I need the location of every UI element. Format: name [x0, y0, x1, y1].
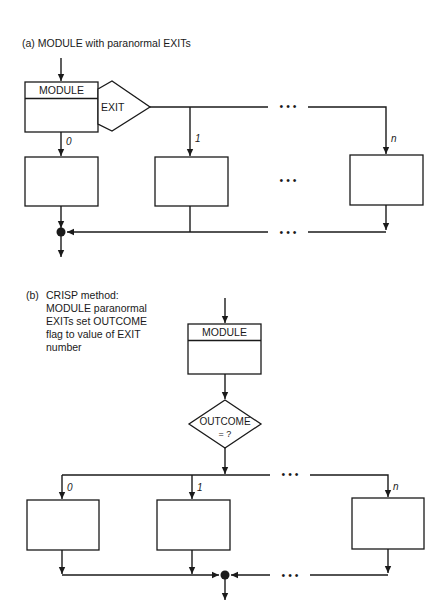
panel-b-caption-line-3: EXITs set OUTCOME [46, 315, 147, 327]
process-box-1-b [157, 500, 230, 550]
panel-b-caption-prefix: (b) [26, 289, 39, 301]
bottom-ellipsis: • • • [280, 226, 297, 238]
process-box-n [350, 155, 423, 205]
branch-n-arrow [308, 107, 386, 154]
flowchart-canvas: (a) MODULE with paranormal EXITs MODULE … [0, 0, 443, 604]
process-box-1 [155, 157, 228, 206]
top-ellipsis-b: • • • [282, 468, 299, 480]
top-ellipsis: • • • [280, 100, 297, 112]
panel-b-caption-line-1: CRISP method: [46, 289, 119, 301]
middle-ellipsis: • • • [280, 174, 297, 186]
panel-a-caption: (a) MODULE with paranormal EXITs [22, 37, 191, 49]
bottom-ellipsis-b: • • • [282, 569, 299, 581]
outcome-label-line-1: OUTCOME [199, 416, 250, 427]
outcome-decision: OUTCOME = ? [189, 400, 261, 448]
panel-b-caption-line-5: number [46, 341, 82, 353]
process-box-n-b [352, 498, 424, 549]
branch-1-label: 1 [195, 133, 201, 144]
module-box-b: MODULE [188, 324, 261, 374]
module-box: MODULE [25, 82, 98, 132]
exit-label: EXIT [101, 101, 125, 113]
branch-0-label: 0 [66, 136, 72, 147]
branch-0-label-b: 0 [67, 482, 73, 493]
panel-b-caption-line-2: MODULE paranormal [46, 302, 147, 314]
exit-decision: EXIT [98, 81, 150, 131]
panel-b-caption-line-4: flag to value of EXIT [46, 328, 141, 340]
branch-1-label-b: 1 [197, 482, 203, 493]
branch-n-label: n [391, 133, 397, 144]
outcome-label-line-2: = ? [219, 429, 232, 439]
junction-dot [57, 228, 66, 237]
junction-dot-b [221, 571, 230, 580]
panel-b: (b) CRISP method: MODULE paranormal EXIT… [26, 289, 424, 600]
branch-n-arrow-b [310, 475, 388, 497]
panel-a: (a) MODULE with paranormal EXITs MODULE … [22, 37, 423, 257]
module-label: MODULE [39, 84, 84, 96]
module-label-b: MODULE [202, 326, 247, 338]
process-box-0 [25, 157, 98, 206]
process-box-0-b [27, 500, 99, 550]
branch-n-label-b: n [393, 481, 399, 492]
